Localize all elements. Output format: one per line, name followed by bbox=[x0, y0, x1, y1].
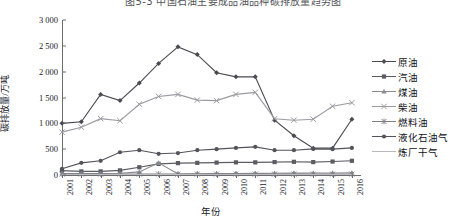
series-marker bbox=[118, 150, 122, 154]
x-axis-tick-mark bbox=[178, 175, 179, 178]
series-marker bbox=[272, 160, 276, 164]
x-axis-tick-mark bbox=[236, 175, 237, 178]
chart-legend: 原油汽油煤油柴油燃料油液化石油气炼厂干气 bbox=[372, 54, 448, 159]
legend-label: 液化石油气 bbox=[398, 130, 448, 144]
y-axis-tick-mark bbox=[63, 149, 66, 150]
x-axis-tick-mark bbox=[352, 175, 353, 178]
x-axis-tick-mark bbox=[217, 175, 218, 178]
legend-item-2[interactable]: 汽油 bbox=[372, 69, 448, 84]
x-axis-tick-label: 2015 bbox=[337, 179, 346, 195]
x-axis-tick-mark bbox=[81, 175, 82, 178]
series-marker bbox=[157, 152, 161, 156]
series-marker bbox=[253, 145, 257, 149]
y-axis-tick-mark bbox=[63, 123, 66, 124]
legend-label: 燃料油 bbox=[398, 115, 428, 129]
series-marker bbox=[292, 160, 296, 164]
series-marker bbox=[215, 161, 219, 165]
y-axis-tick-label: 1 500 bbox=[0, 93, 58, 103]
y-axis-tick-label: 2 500 bbox=[0, 41, 58, 51]
series-marker bbox=[137, 165, 141, 169]
series-marker bbox=[137, 148, 141, 152]
x-axis-tick-label: 2013 bbox=[298, 179, 307, 195]
series-marker bbox=[233, 74, 238, 79]
x-axis-tick-label: 2007 bbox=[182, 179, 191, 195]
series-marker bbox=[176, 151, 180, 155]
x-axis-tick-mark bbox=[120, 175, 121, 178]
x-axis-tick-label: 2014 bbox=[317, 179, 326, 195]
legend-item-1[interactable]: 原油 bbox=[372, 54, 448, 69]
legend-label: 柴油 bbox=[398, 100, 418, 114]
legend-item-3[interactable]: 煤油 bbox=[372, 84, 448, 99]
series-marker bbox=[311, 160, 315, 164]
legend-marker-icon bbox=[372, 56, 396, 67]
x-axis-tick-label: 2010 bbox=[240, 179, 249, 195]
series-marker bbox=[330, 147, 334, 151]
x-axis-tick-label: 2012 bbox=[279, 179, 288, 195]
series-marker bbox=[272, 148, 276, 152]
x-axis-tick-mark bbox=[197, 175, 198, 178]
series-marker bbox=[215, 147, 219, 151]
series-marker bbox=[350, 146, 354, 150]
y-axis-tick-mark bbox=[63, 97, 66, 98]
series-line bbox=[62, 147, 352, 169]
x-axis-tick-mark bbox=[333, 175, 334, 178]
legend-label: 汽油 bbox=[398, 70, 418, 84]
legend-marker-icon bbox=[372, 101, 396, 112]
x-axis-title: 年份 bbox=[62, 204, 360, 218]
series-marker bbox=[60, 167, 64, 171]
y-axis-tick-label: 500 bbox=[0, 144, 58, 154]
series-marker bbox=[234, 146, 238, 150]
legend-item-6[interactable]: 液化石油气 bbox=[372, 129, 448, 144]
x-axis-tick-mark bbox=[255, 175, 256, 178]
y-axis-tick-label: 1 000 bbox=[0, 118, 58, 128]
series-line bbox=[62, 161, 352, 172]
x-axis-tick-mark bbox=[62, 175, 63, 178]
x-axis-tick-label: 2008 bbox=[201, 179, 210, 195]
x-axis-tick-label: 2001 bbox=[66, 179, 75, 195]
x-axis-tick-mark bbox=[159, 175, 160, 178]
x-axis-tick-mark bbox=[275, 175, 276, 178]
y-axis-tick-mark bbox=[63, 175, 66, 176]
x-axis-tick-label: 2009 bbox=[221, 179, 230, 195]
legend-marker-icon bbox=[372, 146, 396, 157]
series-marker bbox=[99, 159, 103, 163]
x-axis-tick-label: 2003 bbox=[105, 179, 114, 195]
x-axis-tick-label: 2002 bbox=[85, 179, 94, 195]
series-marker bbox=[253, 160, 257, 164]
x-axis-tick-mark bbox=[101, 175, 102, 178]
x-axis-tick-mark bbox=[313, 175, 314, 178]
series-line bbox=[62, 163, 352, 174]
legend-marker-icon bbox=[372, 71, 396, 82]
series-marker bbox=[79, 161, 83, 165]
x-axis-tick-label: 2005 bbox=[143, 179, 152, 195]
y-axis-tick-mark bbox=[63, 71, 66, 72]
series-marker bbox=[176, 161, 180, 165]
legend-label: 炼厂干气 bbox=[398, 145, 438, 159]
y-axis-tick-label: 3 000 bbox=[0, 15, 58, 25]
chart-figure: 图5-3 中国石油主要成品油品种碳排放量趋势图 碳排放量/万吨 3 0002 5… bbox=[0, 0, 467, 222]
x-axis-tick-label: 2006 bbox=[163, 179, 172, 195]
legend-marker-icon bbox=[372, 131, 396, 142]
legend-label: 原油 bbox=[398, 55, 418, 69]
legend-item-4[interactable]: 柴油 bbox=[372, 99, 448, 114]
series-line bbox=[62, 47, 352, 148]
x-axis-tick-label: 2011 bbox=[259, 179, 268, 195]
y-axis-tick-mark bbox=[63, 45, 66, 46]
series-marker bbox=[234, 160, 238, 164]
series-marker bbox=[330, 159, 334, 163]
legend-marker-icon bbox=[372, 86, 396, 97]
series-marker bbox=[292, 148, 296, 152]
series-line bbox=[62, 92, 352, 132]
legend-item-7[interactable]: 炼厂干气 bbox=[372, 144, 448, 159]
y-axis-tick-label: 2 000 bbox=[0, 67, 58, 77]
figure-title: 图5-3 中国石油主要成品油品种碳排放量趋势图 bbox=[0, 0, 467, 8]
y-axis-tick-label: 0 bbox=[0, 170, 58, 180]
legend-item-5[interactable]: 燃料油 bbox=[372, 114, 448, 129]
series-marker bbox=[195, 161, 199, 165]
x-axis-tick-mark bbox=[139, 175, 140, 178]
legend-label: 煤油 bbox=[398, 85, 418, 99]
series-marker bbox=[137, 102, 142, 107]
series-marker bbox=[195, 148, 199, 152]
x-axis-line bbox=[62, 175, 361, 176]
series-marker bbox=[311, 147, 315, 151]
